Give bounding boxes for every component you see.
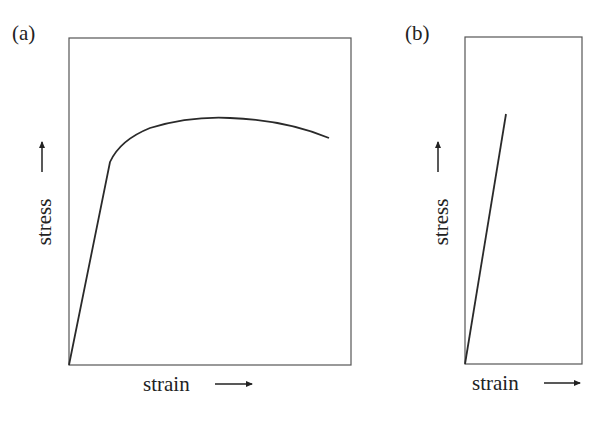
stress-strain-figure: (a) stress strain (b) stress strain: [0, 0, 605, 430]
panel-b-frame: [465, 37, 582, 364]
panel-b-xlabel: strain: [472, 371, 519, 395]
panel-b-label: (b): [405, 21, 430, 45]
panel-a-xlabel: strain: [143, 372, 190, 396]
panel-b: (b) stress strain: [405, 21, 582, 395]
panel-a-ylabel: stress: [32, 199, 56, 246]
panel-b-ylabel: stress: [429, 199, 453, 246]
panel-a-curve: [69, 118, 329, 365]
panel-a-label: (a): [12, 21, 35, 45]
panel-a: (a) stress strain: [12, 21, 351, 396]
panel-b-curve: [465, 114, 506, 364]
panel-a-frame: [69, 38, 351, 365]
